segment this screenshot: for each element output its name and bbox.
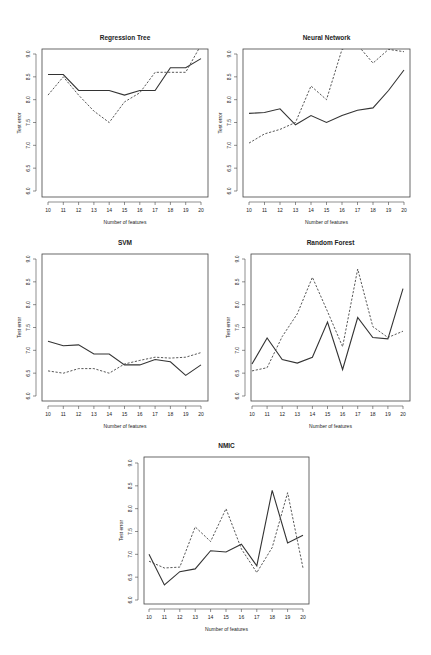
x-tick-label: 15	[122, 207, 128, 213]
y-tick-label: 6.0	[234, 392, 240, 399]
x-tick-label: 16	[340, 411, 346, 417]
y-tick-label: 6.5	[234, 369, 240, 376]
x-tick-label: 13	[91, 207, 97, 213]
x-axis-label: Number of features	[104, 219, 147, 225]
y-tick-label: 7.5	[25, 324, 31, 331]
chart-panel-regression-tree: Regression Tree6.06.57.07.58.08.59.0Test…	[16, 34, 208, 225]
y-tick-label: 7.0	[25, 347, 31, 354]
x-tick-label: 11	[162, 614, 167, 620]
x-tick-label: 12	[177, 614, 183, 620]
x-axis: 1011121314151617181920	[45, 406, 204, 417]
x-tick-label: 10	[45, 411, 51, 417]
y-tick-label: 8.5	[25, 73, 31, 80]
x-tick-label: 14	[106, 207, 112, 213]
x-tick-label: 20	[400, 411, 406, 417]
y-tick-label: 7.0	[127, 551, 133, 558]
chart-panel-random-forest: Random Forest6.06.57.07.58.08.59.0Test e…	[225, 239, 410, 429]
x-tick-label: 18	[168, 207, 174, 213]
x-tick-label: 18	[168, 411, 174, 417]
y-axis: 6.06.57.07.58.08.59.0	[226, 50, 237, 194]
y-tick-label: 9.0	[25, 50, 31, 57]
plot-frame	[251, 254, 410, 401]
series-line-dashed	[252, 269, 403, 371]
x-tick-label: 13	[192, 614, 198, 620]
x-axis-label: Number of features	[205, 626, 248, 632]
y-axis: 6.06.57.07.58.08.59.0	[25, 50, 36, 194]
chart-panel-neural-network: Neural Network6.06.57.07.58.08.59.0Test …	[217, 34, 410, 225]
series-line-dashed	[48, 353, 201, 374]
figure-grid: Regression Tree6.06.57.07.58.08.59.0Test…	[0, 0, 431, 655]
y-tick-label: 6.0	[127, 596, 133, 603]
x-tick-label: 11	[61, 207, 66, 213]
x-tick-label: 11	[262, 207, 267, 213]
y-tick-label: 9.0	[127, 459, 133, 466]
x-tick-label: 20	[401, 207, 407, 213]
x-tick-label: 15	[324, 207, 330, 213]
series-line-solid	[252, 289, 403, 370]
y-tick-label: 8.5	[234, 278, 240, 285]
y-tick-label: 6.5	[25, 164, 31, 171]
x-axis-label: Number of features	[104, 423, 147, 429]
plot-frame	[42, 254, 208, 401]
x-tick-label: 12	[76, 411, 82, 417]
y-tick-label: 7.5	[25, 119, 31, 126]
x-tick-label: 20	[198, 207, 204, 213]
x-tick-label: 10	[45, 207, 51, 213]
x-axis: 1011121314151617181920	[45, 202, 204, 213]
series-line-dashed	[249, 45, 404, 143]
x-tick-label: 13	[293, 207, 299, 213]
series-line-solid	[149, 490, 303, 585]
x-tick-label: 15	[122, 411, 128, 417]
y-tick-label: 7.0	[226, 142, 232, 149]
x-tick-label: 10	[146, 614, 152, 620]
x-tick-label: 20	[198, 411, 204, 417]
y-axis-label: Test error	[217, 112, 223, 133]
y-tick-label: 6.0	[226, 187, 232, 194]
x-tick-label: 14	[208, 614, 214, 620]
y-tick-label: 6.5	[127, 573, 133, 580]
y-axis-label: Test error	[16, 317, 22, 338]
y-tick-label: 8.5	[226, 73, 232, 80]
x-tick-label: 17	[254, 614, 260, 620]
x-tick-label: 17	[152, 411, 158, 417]
series-line-solid	[249, 70, 404, 125]
x-tick-label: 19	[386, 207, 392, 213]
x-tick-label: 18	[269, 614, 275, 620]
y-tick-label: 6.5	[226, 164, 232, 171]
y-axis-label: Test error	[118, 520, 124, 541]
x-tick-label: 17	[152, 207, 158, 213]
y-tick-label: 6.0	[25, 187, 31, 194]
x-tick-label: 14	[310, 411, 316, 417]
y-tick-label: 7.0	[25, 142, 31, 149]
y-tick-label: 6.5	[25, 369, 31, 376]
x-tick-label: 13	[295, 411, 301, 417]
x-tick-label: 16	[137, 411, 143, 417]
x-tick-label: 14	[308, 207, 314, 213]
x-tick-label: 12	[279, 411, 285, 417]
y-tick-label: 7.5	[234, 324, 240, 331]
y-tick-label: 8.0	[234, 301, 240, 308]
chart-panel-nmic: NMIC6.06.57.07.58.08.59.0Test error10111…	[118, 442, 309, 632]
x-tick-label: 18	[370, 411, 376, 417]
y-tick-label: 9.0	[226, 50, 232, 57]
x-tick-label: 19	[285, 614, 291, 620]
y-tick-label: 7.5	[226, 119, 232, 126]
y-axis: 6.06.57.07.58.08.59.0	[234, 255, 245, 399]
y-tick-label: 9.0	[25, 255, 31, 262]
x-tick-label: 19	[385, 411, 391, 417]
x-tick-label: 19	[183, 411, 189, 417]
x-axis-label: Number of features	[305, 219, 348, 225]
y-axis: 6.06.57.07.58.08.59.0	[25, 255, 36, 399]
chart-panel-svm: SVM6.06.57.07.58.08.59.0Test error101112…	[16, 239, 208, 429]
chart-title: Neural Network	[303, 34, 351, 41]
series-line-solid	[48, 341, 201, 375]
y-axis-label: Test error	[225, 317, 231, 338]
x-tick-label: 19	[183, 207, 189, 213]
x-axis: 1011121314151617181920	[249, 406, 406, 417]
x-tick-label: 16	[239, 614, 245, 620]
x-tick-label: 10	[249, 411, 255, 417]
chart-title: Regression Tree	[100, 34, 151, 42]
chart-title: NMIC	[218, 442, 235, 449]
x-tick-label: 11	[264, 411, 269, 417]
x-tick-label: 15	[325, 411, 331, 417]
